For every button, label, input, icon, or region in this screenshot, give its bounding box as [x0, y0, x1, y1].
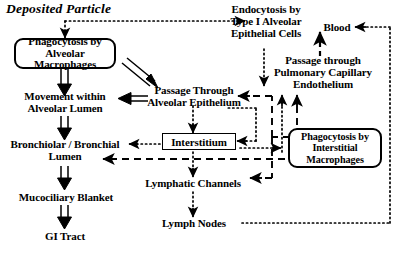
node-gi-tract[interactable]: GI Tract: [36, 231, 94, 243]
node-passage-through-pulmonary-capillary-endothelium[interactable]: Passage through Pulmonary Capillary Endo…: [268, 55, 378, 91]
node-lymphatic-channels[interactable]: Lymphatic Channels: [140, 178, 246, 190]
node-phagocytosis-interstitial-macrophages[interactable]: Phagocytosis by Interstitial Macrophages: [288, 128, 382, 168]
node-endocytosis-type-i-alveolar-epithelial-cells[interactable]: Endocytosis by Type I Alveolar Epithelia…: [214, 4, 318, 40]
node-phagocytosis-alveolar-macrophages[interactable]: Phagocytosis by Alveolar Macrophages: [14, 38, 116, 69]
node-interstitium[interactable]: Interstitium: [162, 133, 236, 150]
node-movement-within-alveolar-lumen[interactable]: Movement within Alveolar Lumen: [13, 91, 117, 115]
node-passage-through-alveolar-epithelium[interactable]: Passage Through Alveolar Epithelium: [142, 85, 246, 109]
diagram-canvas: Deposited Particle Phagocytosis by Alveo…: [0, 0, 408, 254]
node-label: Phagocytosis by Interstitial Macrophages: [301, 131, 369, 164]
node-label: Phagocytosis by Alveolar Macrophages: [16, 36, 114, 72]
node-mucociliary-blanket[interactable]: Mucociliary Blanket: [11, 192, 121, 204]
node-bronchiolar-bronchial-lumen[interactable]: Bronchiolar / Bronchial Lumen: [4, 139, 126, 163]
node-blood[interactable]: Blood: [318, 22, 356, 34]
node-lymph-nodes[interactable]: Lymph Nodes: [154, 218, 234, 230]
diagram-title: Deposited Particle: [6, 2, 186, 17]
